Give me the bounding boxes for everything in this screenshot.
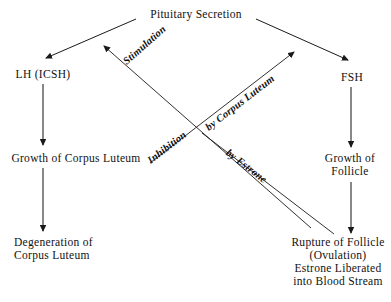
edge-pituitary-to-fsh (256, 19, 348, 60)
node-pituitary-secretion-label: Pituitary Secretion (150, 8, 242, 21)
node-growth-of-corpus-luteum: Growth of Corpus Luteum (11, 152, 140, 165)
hormone-feedback-diagram: Pituitary Secretion LH (ICSH) FSH Growth… (0, 0, 391, 302)
node-lh-icsh: LH (ICSH) (16, 68, 71, 81)
edge-pituitary-to-lh (46, 19, 136, 58)
node-rupture-of-follicle-line1: Rupture of Follicle (291, 236, 384, 249)
node-growth-of-follicle-line2: Follicle (325, 165, 375, 178)
node-growth-of-corpus-luteum-label: Growth of Corpus Luteum (11, 152, 140, 165)
node-rupture-of-follicle-line3: Estrone Liberated (291, 262, 384, 275)
node-degeneration-of-corpus-luteum-line1: Degeneration of (14, 236, 93, 249)
node-growth-of-follicle-line1: Growth of (325, 152, 375, 165)
node-rupture-of-follicle-line2: (Ovulation) (291, 249, 384, 262)
node-pituitary-secretion: Pituitary Secretion (150, 8, 242, 21)
node-lh-icsh-label: LH (ICSH) (16, 68, 71, 81)
node-degeneration-of-corpus-luteum-line2: Corpus Luteum (14, 249, 93, 262)
node-rupture-of-follicle-line4: into Blood Stream (291, 275, 384, 288)
node-fsh: FSH (341, 71, 363, 84)
node-fsh-label: FSH (341, 71, 363, 84)
node-rupture-of-follicle: Rupture of Follicle (Ovulation) Estrone … (291, 236, 384, 288)
edge-by-estrone (202, 133, 334, 234)
node-growth-of-follicle: Growth of Follicle (325, 152, 375, 178)
node-degeneration-of-corpus-luteum: Degeneration of Corpus Luteum (14, 236, 93, 262)
